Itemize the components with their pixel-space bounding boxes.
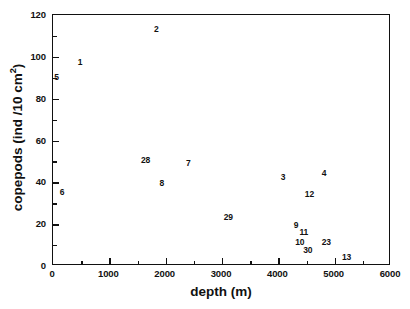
data-point-label: 11 — [299, 227, 308, 237]
y-axis-tick — [53, 224, 59, 225]
y-axis-tick-label: 100 — [30, 50, 46, 61]
data-point-label: 8 — [160, 178, 165, 188]
y-axis-tick — [53, 141, 59, 142]
x-axis-tick — [166, 258, 167, 264]
scatter-chart-figure: 0100020003000400050006000020406080100120… — [0, 0, 410, 309]
y-axis-tick — [53, 99, 59, 100]
data-point-label: 3 — [281, 172, 286, 182]
y-axis-tick-label: 40 — [36, 176, 46, 187]
x-axis-minor-tick — [81, 261, 82, 265]
x-axis-minor-tick — [307, 261, 308, 265]
data-point-label: 4 — [322, 168, 327, 178]
y-axis-minor-tick — [53, 245, 57, 246]
y-axis-tick — [53, 182, 59, 183]
x-axis-tick-label: 5000 — [323, 268, 344, 279]
y-axis-minor-tick — [53, 120, 57, 121]
data-point-label: 5 — [54, 72, 59, 82]
x-axis-label: depth (m) — [52, 284, 390, 299]
x-axis-tick — [278, 258, 279, 264]
x-axis-minor-tick — [363, 261, 364, 265]
data-point-label: 6 — [60, 187, 65, 197]
y-axis-tick-label: 120 — [30, 9, 46, 20]
y-axis-minor-tick — [53, 161, 57, 162]
data-point-label: 13 — [342, 252, 351, 262]
x-axis-minor-tick — [194, 261, 195, 265]
y-axis-minor-tick — [53, 36, 57, 37]
x-axis-tick-label: 3000 — [211, 268, 232, 279]
y-axis-label: copepods (ind /10 cm2) — [10, 13, 25, 263]
y-axis-label-superscript: 2 — [8, 68, 18, 73]
data-point-label: 29 — [224, 212, 233, 222]
y-axis-tick-label: 0 — [41, 260, 46, 271]
data-point-label: 23 — [322, 237, 331, 247]
plot-frame — [52, 14, 390, 265]
y-axis-tick-label: 20 — [36, 218, 46, 229]
data-point-label: 2 — [154, 24, 159, 34]
data-point-label: 7 — [186, 158, 191, 168]
x-axis-tick-label: 0 — [49, 268, 54, 279]
x-axis-tick-label: 2000 — [154, 268, 175, 279]
data-point-label: 12 — [305, 189, 314, 199]
data-point-label: 30 — [303, 245, 312, 255]
x-axis-minor-tick — [138, 261, 139, 265]
y-axis-label-text: copepods (ind /10 cm — [10, 73, 25, 211]
y-axis-tick-label: 60 — [36, 134, 46, 145]
y-axis-label-close-paren: ) — [10, 64, 25, 69]
y-axis-minor-tick — [53, 203, 57, 204]
x-axis-minor-tick — [250, 261, 251, 265]
data-point-label: 28 — [141, 155, 150, 165]
x-axis-tick — [335, 258, 336, 264]
y-axis-tick-label: 80 — [36, 92, 46, 103]
x-axis-tick — [222, 258, 223, 264]
data-point-label: 9 — [294, 220, 299, 230]
y-axis-tick — [53, 57, 59, 58]
x-axis-tick-label: 6000 — [380, 268, 401, 279]
x-axis-tick-label: 1000 — [98, 268, 119, 279]
x-axis-tick-label: 4000 — [267, 268, 288, 279]
data-point-label: 1 — [78, 57, 83, 67]
x-axis-tick — [109, 258, 110, 264]
